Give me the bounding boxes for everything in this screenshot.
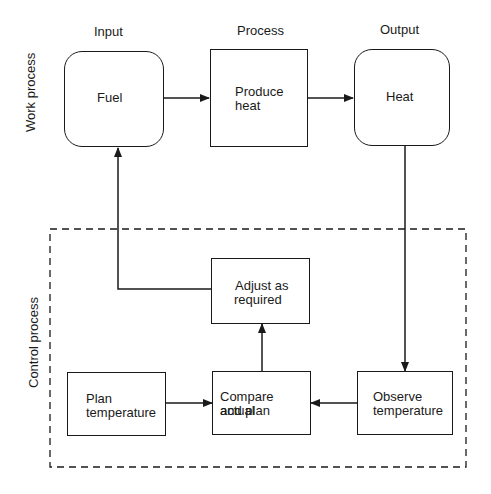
column-header-output: Output [380,22,419,37]
node-plan-line1: Plan [86,392,112,406]
node-plan-temperature: Plan temperature [67,372,166,436]
row-label-control-process: Control process [26,297,41,388]
node-plan-line2: temperature [86,406,156,420]
row-label-work-process: Work process [23,53,38,132]
node-observe-temperature: Observe temperature [357,371,453,435]
node-fuel-label: Fuel [97,91,122,105]
node-adjust-line2: required [234,293,282,307]
node-adjust-line1: Adjust as [235,279,288,293]
node-heat: Heat [354,49,450,146]
node-observe-line1: Observe [373,390,422,404]
node-adjust-as-required: Adjust as required [211,258,310,324]
node-heat-label: Heat [386,90,413,104]
column-header-process: Process [237,23,284,38]
node-produce-heat: Produce heat [210,49,308,147]
node-compare-line2: and plan [220,404,270,418]
node-compare-actual-and-plan: Compare actual and plan [212,371,311,435]
node-observe-line2: temperature [373,404,443,418]
column-header-input: Input [94,24,123,39]
node-produce-heat-line1: Produce [235,85,283,99]
node-produce-heat-line2: heat [235,99,260,113]
node-fuel: Fuel [64,51,164,147]
